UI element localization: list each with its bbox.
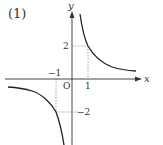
y-axis-label: y [67,0,74,11]
problem-label: (1) [8,6,26,21]
tick-label-y-neg2: −2 [77,107,90,117]
tick-label-x-neg1: −1 [48,68,61,78]
y-axis-arrow-icon [70,11,75,18]
tick-label-y-2: 2 [63,41,69,51]
guide-lines-point-1-2 [72,46,88,79]
curve-branch-right [80,14,136,71]
tick-label-x-1: 1 [85,81,91,91]
x-axis-arrow-icon [135,77,142,82]
origin-label: O [63,81,70,91]
hyperbola-graph: (1) x y O 1 −1 2 −2 [0,0,163,145]
x-axis-label: x [144,73,150,84]
x-axis [5,77,142,82]
y-axis [70,11,75,145]
curve-branch-left [8,87,64,145]
